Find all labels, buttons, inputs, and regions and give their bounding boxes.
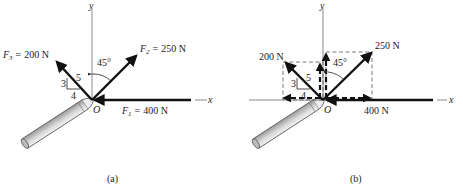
- force-f1-label: F1=400 N: [121, 105, 168, 118]
- force-f2-label: 250 N: [375, 40, 400, 51]
- force-f3-label: 200 N: [259, 51, 284, 62]
- force-diagram: y x 3 4 5 45° O F3=200 N F2=250 N F1=400…: [0, 0, 463, 188]
- figure-b: y x 3 4 5 45° O 200 N 250 N 400 N (b): [249, 0, 454, 185]
- slope-rise-label: 3: [291, 78, 296, 89]
- slope-hyp-label: 5: [306, 72, 311, 83]
- force-f2-arrow: [323, 53, 371, 100]
- origin-label: O: [324, 104, 331, 115]
- x-axis-label: x: [207, 94, 213, 105]
- slope-rise-label: 3: [61, 78, 66, 89]
- pipe-post: [20, 95, 96, 150]
- y-axis-label: y: [319, 0, 325, 11]
- slope-hyp-label: 5: [76, 72, 81, 83]
- origin-label: O: [93, 104, 100, 115]
- angle-arc: [92, 74, 111, 81]
- slope-run-label: 4: [301, 90, 306, 101]
- slope-run-label: 4: [71, 90, 76, 101]
- force-f3-label: F3=200 N: [2, 49, 49, 62]
- y-axis-label: y: [88, 0, 94, 11]
- figure-a: y x 3 4 5 45° O F3=200 N F2=250 N F1=400…: [2, 0, 213, 185]
- pipe-post: [251, 95, 327, 150]
- angle-arc: [328, 72, 344, 80]
- force-f1-label: 400 N: [364, 105, 389, 116]
- x-axis-label: x: [448, 94, 454, 105]
- angle-label: 45°: [97, 57, 111, 68]
- caption-a: (a): [107, 173, 118, 185]
- angle-label: 45°: [333, 57, 347, 68]
- caption-b: (b): [350, 173, 362, 185]
- force-f2-label: F2=250 N: [139, 43, 186, 56]
